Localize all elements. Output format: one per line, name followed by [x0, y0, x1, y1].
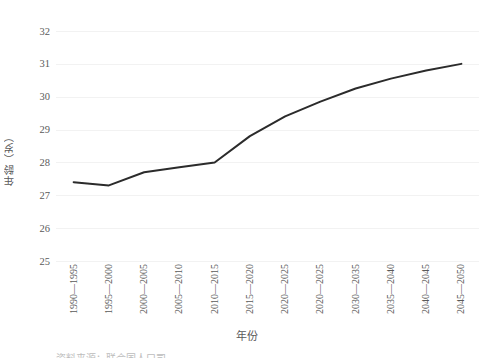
- x-axis-tick-label: 2010—2015: [209, 264, 221, 324]
- x-axis-tick-label: 2005—2010: [173, 264, 185, 324]
- y-axis-tick-label: 27: [24, 190, 50, 201]
- x-axis-tick-label: 2020—2025: [314, 264, 326, 324]
- y-axis-tick-label: 29: [24, 124, 50, 135]
- y-axis-tick-label: 31: [24, 58, 50, 69]
- x-axis-tick-label: 1990—1995: [68, 264, 80, 324]
- x-axis-tick-label: 2035—2040: [385, 264, 397, 324]
- line-chart: 年龄（岁） 2526272829303132 1990—19951995—200…: [0, 0, 493, 358]
- y-axis-tick-label: 28: [24, 157, 50, 168]
- x-axis-tick-label: 2000—2005: [138, 264, 150, 324]
- y-axis-tick-label: 30: [24, 91, 50, 102]
- y-axis-tick-label: 25: [24, 256, 50, 267]
- gridline: [56, 261, 479, 262]
- plot-area: [56, 31, 479, 261]
- x-axis-tick-labels: 1990—19951995—20002000—20052005—20102010…: [56, 264, 479, 326]
- x-axis-tick-label: 2020—2025: [279, 264, 291, 324]
- x-axis-tick-label: 2015—2020: [244, 264, 256, 324]
- series-polyline: [74, 64, 462, 186]
- x-axis-tick-label: 1995—2000: [103, 264, 115, 324]
- y-axis-title: 年龄（岁）: [2, 104, 18, 214]
- y-axis-tick-labels: 2526272829303132: [18, 0, 50, 358]
- clipped-caption: 资料来源：联合国人口司: [56, 350, 456, 358]
- series-line: [56, 31, 479, 261]
- x-axis-tick-label: 2030—2035: [350, 264, 362, 324]
- y-axis-tick-label: 32: [24, 26, 50, 37]
- x-axis-tick-label: 2040—2045: [420, 264, 432, 324]
- x-axis-tick-label: 2045—2050: [455, 264, 467, 324]
- y-axis-tick-label: 26: [24, 223, 50, 234]
- x-axis-title: 年份: [0, 327, 493, 343]
